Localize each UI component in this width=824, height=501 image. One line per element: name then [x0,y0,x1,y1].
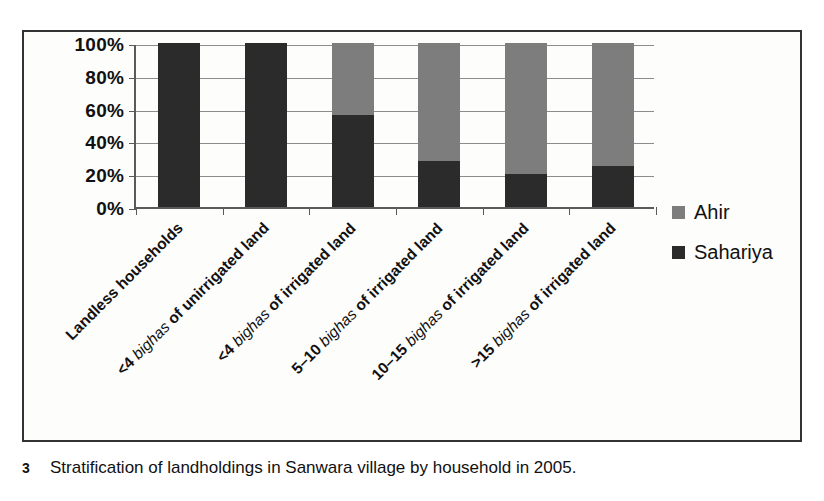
legend-label: Ahir [694,201,730,224]
y-axis-label: 60% [85,100,124,122]
x-axis-category-label: <4 bighas of irrigated land [213,219,359,365]
x-axis-tick [136,207,137,215]
legend-item[interactable]: Sahariya [672,232,773,272]
gridline [136,176,654,177]
x-axis-category-label: 5–10 bighas of irrigated land [288,219,446,377]
gridline [136,78,654,79]
bar-column[interactable] [418,45,460,207]
sahariya-swatch [672,246,685,259]
x-axis-category-label: 10–15 bighas of irrigated land [368,219,532,383]
gridline [136,45,654,46]
figure-caption: 3 Stratification of landholdings in Sanw… [22,458,576,478]
x-axis-tick [656,207,657,215]
bar-column[interactable] [505,45,547,207]
bar-column[interactable] [592,45,634,207]
x-axis-tick [223,207,224,215]
y-axis-tick [129,143,136,144]
y-axis-label: 20% [85,165,124,187]
x-axis-category-label: >15 bighas of irrigated land [467,219,620,372]
x-axis-tick [483,207,484,215]
bar-segment-ahir[interactable] [505,43,547,174]
y-axis-label: 80% [85,67,124,89]
legend-label: Sahariya [694,241,773,264]
chart-legend: AhirSahariya [672,192,773,272]
x-axis-tick [396,207,397,215]
gridline [136,111,654,112]
bar-segment-sahariya[interactable] [158,43,200,207]
bar-segment-sahariya[interactable] [592,166,634,207]
bar-segment-sahariya[interactable] [332,115,374,207]
y-axis-tick [129,176,136,177]
y-axis-label: 100% [75,34,124,56]
caption-number: 3 [22,460,50,476]
y-axis-label: 0% [96,198,124,220]
caption-text: Stratification of landholdings in Sanwar… [50,458,576,478]
bar-segment-ahir[interactable] [592,43,634,166]
bar-segment-ahir[interactable] [418,43,460,161]
y-axis-tick [129,209,136,210]
y-axis-tick [129,111,136,112]
bar-segment-sahariya[interactable] [418,161,460,207]
bar-column[interactable] [332,45,374,207]
bar-column[interactable] [158,45,200,207]
y-axis-label: 40% [85,132,124,154]
legend-item[interactable]: Ahir [672,192,773,232]
x-axis-tick [309,207,310,215]
bar-segment-sahariya[interactable] [505,174,547,207]
ahir-swatch [672,206,685,219]
y-axis-tick [129,78,136,79]
chart-plot-area: 0%20%40%60%80%100% [134,45,654,209]
gridline [136,143,654,144]
bar-segment-sahariya[interactable] [245,43,287,207]
x-axis-tick [569,207,570,215]
y-axis-tick [129,45,136,46]
bar-segment-ahir[interactable] [332,43,374,115]
figure-frame: 0%20%40%60%80%100% AhirSahariya Landless… [22,30,802,442]
bar-column[interactable] [245,45,287,207]
x-axis-category-label: <4 bighas of unirrigated land [113,219,273,379]
